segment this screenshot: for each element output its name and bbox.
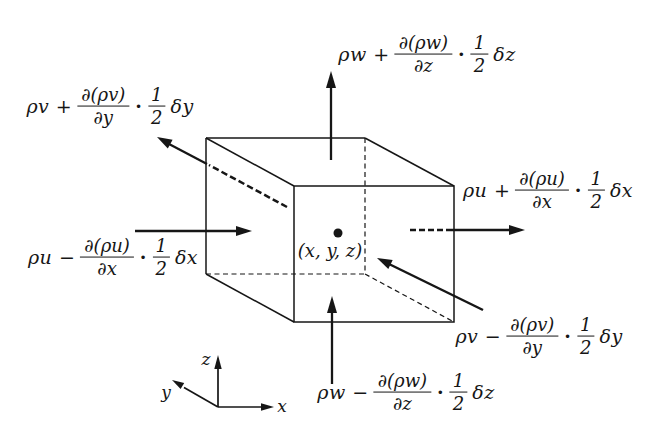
label-flux-u-plus: ρu + ∂(ρu) ∂x · 1 2 δx xyxy=(463,169,633,212)
partial-fraction: ∂(ρu) ∂x xyxy=(515,169,569,212)
fraction-denominator: 2 xyxy=(580,337,591,358)
half-fraction: 1 2 xyxy=(152,236,169,279)
cdot-operator: · xyxy=(135,97,142,116)
half-fraction: 1 2 xyxy=(587,169,604,212)
fraction-numerator: 1 xyxy=(152,236,169,258)
fraction-numerator: 1 xyxy=(587,169,604,191)
half-fraction: 1 2 xyxy=(450,371,467,414)
cdot-operator: · xyxy=(140,248,147,267)
partial-fraction: ∂(ρw) ∂z xyxy=(395,33,452,76)
label-flux-u-minus: ρu − ∂(ρu) ∂x · 1 2 δx xyxy=(28,236,198,279)
flux-prefix: ρu − xyxy=(28,248,75,267)
fraction-numerator: 1 xyxy=(577,315,594,337)
fraction-numerator: ∂(ρv) xyxy=(506,315,558,337)
fraction-denominator: ∂x xyxy=(532,191,551,212)
fraction-numerator: ∂(ρw) xyxy=(395,33,452,55)
partial-fraction: ∂(ρv) ∂y xyxy=(77,85,129,128)
fraction-numerator: ∂(ρw) xyxy=(374,371,431,393)
label-center-point: (x, y, z) xyxy=(298,242,362,260)
fraction-denominator: ∂y xyxy=(523,337,542,358)
flux-arrow-u-minus xyxy=(135,226,252,236)
half-fraction: 1 2 xyxy=(577,315,594,358)
flux-prefix: ρw − xyxy=(317,383,368,402)
flux-suffix: δx xyxy=(175,248,198,267)
fraction-denominator: ∂z xyxy=(414,55,433,76)
label-flux-v-plus: ρv + ∂(ρv) ∂y · 1 2 δy xyxy=(26,85,193,128)
fraction-denominator: 2 xyxy=(155,258,166,279)
axis-x-label: x xyxy=(277,398,287,415)
control-volume-figure: ρv + ∂(ρv) ∂y · 1 2 δy ρw + ∂(ρw) ∂z · 1… xyxy=(0,0,650,447)
cdot-operator: · xyxy=(437,383,444,402)
fraction-denominator: 2 xyxy=(453,393,464,414)
half-fraction: 1 2 xyxy=(471,33,488,76)
fraction-denominator: ∂z xyxy=(393,393,412,414)
flux-arrow-w-plus xyxy=(326,71,336,160)
label-flux-w-plus: ρw + ∂(ρw) ∂z · 1 2 δz xyxy=(338,33,515,76)
label-flux-w-minus: ρw − ∂(ρw) ∂z · 1 2 δz xyxy=(317,371,494,414)
axis-y-arrow xyxy=(172,380,218,407)
fraction-denominator: 2 xyxy=(474,55,485,76)
fraction-denominator: 2 xyxy=(590,191,601,212)
axis-z-arrow xyxy=(214,355,221,407)
flux-prefix: ρv + xyxy=(26,97,72,116)
coordinate-axes xyxy=(172,355,274,411)
flux-prefix: ρw + xyxy=(338,45,389,64)
flux-suffix: δz xyxy=(493,45,515,64)
center-point-dot xyxy=(334,229,343,238)
fraction-denominator: ∂x xyxy=(97,258,116,279)
fraction-numerator: ∂(ρu) xyxy=(80,236,134,258)
flux-prefix: ρu + xyxy=(463,181,510,200)
axis-z-label: z xyxy=(202,351,211,368)
flux-arrow-u-plus xyxy=(410,225,525,235)
fraction-numerator: ∂(ρv) xyxy=(77,85,129,107)
label-flux-v-minus: ρv − ∂(ρv) ∂y · 1 2 δy xyxy=(455,315,622,358)
fraction-numerator: 1 xyxy=(148,85,165,107)
fraction-denominator: ∂y xyxy=(94,107,113,128)
flux-suffix: δz xyxy=(472,383,494,402)
partial-fraction: ∂(ρv) ∂y xyxy=(506,315,558,358)
flux-suffix: δy xyxy=(170,97,193,116)
partial-fraction: ∂(ρu) ∂x xyxy=(80,236,134,279)
cdot-operator: · xyxy=(564,327,571,346)
cdot-operator: · xyxy=(458,45,465,64)
flux-prefix: ρv − xyxy=(455,327,501,346)
axis-y-label: y xyxy=(161,384,171,401)
cdot-operator: · xyxy=(575,181,582,200)
flux-suffix: δy xyxy=(599,327,622,346)
fraction-numerator: 1 xyxy=(471,33,488,55)
fraction-numerator: ∂(ρu) xyxy=(515,169,569,191)
half-fraction: 1 2 xyxy=(148,85,165,128)
fraction-denominator: 2 xyxy=(151,107,162,128)
flux-suffix: δx xyxy=(610,181,633,200)
partial-fraction: ∂(ρw) ∂z xyxy=(374,371,431,414)
flux-arrow-v-minus xyxy=(377,258,483,310)
fraction-numerator: 1 xyxy=(450,371,467,393)
axis-x-arrow xyxy=(218,403,274,410)
